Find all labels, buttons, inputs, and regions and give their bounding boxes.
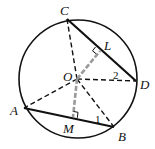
label-angle-2: 2 <box>113 69 119 81</box>
label-angle-1: 1 <box>95 113 101 125</box>
label-l: L <box>103 38 111 53</box>
right-angle-mark-l <box>93 47 97 54</box>
chord-cd <box>67 19 136 81</box>
label-c: C <box>60 3 69 18</box>
label-m: M <box>62 121 75 136</box>
label-o: O <box>63 69 73 84</box>
geometry-diagram: C L O 2 D A 1 M B <box>0 0 155 149</box>
perpendicular-ol <box>77 51 100 79</box>
radius-od <box>77 79 136 81</box>
label-d: D <box>139 77 150 92</box>
perpendiculars <box>73 51 100 117</box>
label-a: A <box>9 103 18 118</box>
label-b: B <box>118 129 126 144</box>
